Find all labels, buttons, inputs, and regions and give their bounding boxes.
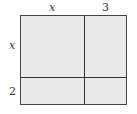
cell-2-by-x bbox=[21, 78, 84, 104]
side-label-x: x bbox=[9, 40, 15, 51]
cell-2-by-3 bbox=[85, 78, 126, 104]
side-label-2: 2 bbox=[9, 86, 16, 97]
cell-x-by-x bbox=[21, 16, 84, 77]
vertical-divider bbox=[84, 16, 85, 104]
area-model-rectangle bbox=[20, 15, 127, 105]
top-label-x: x bbox=[49, 2, 55, 13]
cell-x-by-3 bbox=[85, 16, 126, 77]
horizontal-divider bbox=[21, 77, 126, 78]
top-label-3: 3 bbox=[102, 2, 109, 13]
